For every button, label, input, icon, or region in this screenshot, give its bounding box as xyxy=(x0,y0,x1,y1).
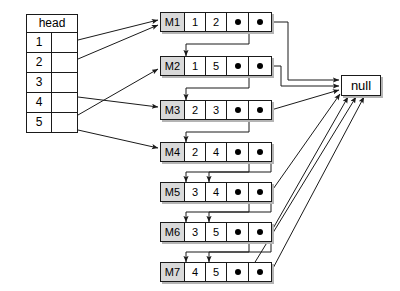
head-row-pointer-cell xyxy=(52,53,77,72)
head-row[interactable]: 5 xyxy=(27,113,77,132)
node-value-2: 2 xyxy=(206,13,227,31)
edge-m1-p2-to-null xyxy=(271,22,339,80)
pointer-dot-icon xyxy=(235,229,241,235)
pointer-dot-icon xyxy=(235,149,241,155)
edge-m3-p2-to-null xyxy=(271,90,339,110)
node-pointer-2[interactable] xyxy=(249,57,271,75)
node-pointer-1[interactable] xyxy=(227,263,249,281)
edge-m5-p2-to-m6-alt xyxy=(209,204,271,222)
node-pointer-1[interactable] xyxy=(227,13,249,31)
node-pointer-1[interactable] xyxy=(227,143,249,161)
pointer-dot-icon xyxy=(257,63,263,69)
edge-m2-p2-to-null xyxy=(271,66,339,86)
node-value-1: 1 xyxy=(185,57,206,75)
edge-m2-p1-to-m3 xyxy=(186,78,249,100)
pointer-dot-icon xyxy=(235,19,241,25)
node-m4[interactable]: M4 2 4 xyxy=(160,142,272,162)
head-row-index: 3 xyxy=(27,73,52,92)
head-row[interactable]: 4 xyxy=(27,93,77,113)
node-value-2: 3 xyxy=(206,101,227,119)
node-value-1: 2 xyxy=(185,101,206,119)
edge-head3-to-m3 xyxy=(78,97,158,107)
edge-head5-to-m4 xyxy=(78,130,158,148)
edge-m4-p2-to-m5-alt xyxy=(209,164,271,182)
pointer-dot-icon xyxy=(235,107,241,113)
node-value-2: 5 xyxy=(206,57,227,75)
pointer-dot-icon xyxy=(257,229,263,235)
null-terminator: null xyxy=(341,75,381,96)
pointer-dot-icon xyxy=(257,19,263,25)
node-label: M3 xyxy=(161,101,185,119)
pointer-dot-icon xyxy=(257,149,263,155)
pointer-dot-icon xyxy=(235,63,241,69)
node-pointer-1[interactable] xyxy=(227,223,249,241)
pointer-dot-icon xyxy=(257,189,263,195)
node-m2[interactable]: M2 1 5 xyxy=(160,56,272,76)
pointer-dot-icon xyxy=(235,189,241,195)
node-m6[interactable]: M6 3 5 xyxy=(160,222,272,242)
node-pointer-2[interactable] xyxy=(249,263,271,281)
node-value-2: 4 xyxy=(206,143,227,161)
head-row[interactable]: 1 xyxy=(27,33,77,53)
node-label: M7 xyxy=(161,263,185,281)
head-row-pointer-cell xyxy=(52,33,77,52)
edge-head1-to-m1 xyxy=(78,20,158,40)
node-value-1: 4 xyxy=(185,263,206,281)
head-row[interactable]: 2 xyxy=(27,53,77,73)
node-value-2: 5 xyxy=(206,263,227,281)
edge-m6-p2-to-m7-alt xyxy=(209,244,271,262)
head-row-index: 5 xyxy=(27,113,52,132)
pointer-dot-icon xyxy=(235,269,241,275)
head-row-pointer-cell xyxy=(52,113,77,132)
edge-m3-p1-to-m4 xyxy=(186,122,249,142)
node-label: M2 xyxy=(161,57,185,75)
node-label: M5 xyxy=(161,183,185,201)
head-row-index: 2 xyxy=(27,53,52,72)
head-table-title: head xyxy=(27,15,77,33)
head-row-index: 1 xyxy=(27,33,52,52)
node-pointer-2[interactable] xyxy=(249,143,271,161)
node-value-1: 3 xyxy=(185,183,206,201)
edge-m5-p2-to-null xyxy=(271,94,340,192)
node-pointer-1[interactable] xyxy=(227,57,249,75)
node-value-2: 5 xyxy=(206,223,227,241)
node-m1[interactable]: M1 1 2 xyxy=(160,12,272,32)
node-pointer-1[interactable] xyxy=(227,101,249,119)
edge-m5-p1-to-m6 xyxy=(186,204,249,222)
node-pointer-2[interactable] xyxy=(249,223,271,241)
node-m7[interactable]: M7 4 5 xyxy=(160,262,272,282)
node-pointer-1[interactable] xyxy=(227,183,249,201)
head-row-pointer-cell xyxy=(52,93,77,112)
edge-m6-p1-to-m7 xyxy=(186,244,249,262)
pointer-dot-icon xyxy=(257,269,263,275)
node-label: M1 xyxy=(161,13,185,31)
head-row-pointer-cell xyxy=(52,73,77,92)
edge-m6-p2-to-null xyxy=(271,97,348,232)
head-row-index: 4 xyxy=(27,93,52,112)
edge-head4-to-m2 xyxy=(78,69,158,115)
node-m5[interactable]: M5 3 4 xyxy=(160,182,272,202)
node-value-1: 2 xyxy=(185,143,206,161)
node-value-1: 3 xyxy=(185,223,206,241)
edge-head2-to-m1 xyxy=(78,25,158,59)
node-label: M6 xyxy=(161,223,185,241)
node-m3[interactable]: M3 2 3 xyxy=(160,100,272,120)
node-value-2: 4 xyxy=(206,183,227,201)
edge-m4-p1-to-m5 xyxy=(186,164,249,182)
node-label: M4 xyxy=(161,143,185,161)
head-table: head 1 2 3 4 5 xyxy=(26,14,78,133)
diagram-canvas: head 1 2 3 4 5 M1 1 2 M2 1 5 xyxy=(0,0,400,291)
node-pointer-2[interactable] xyxy=(249,13,271,31)
edge-m1-p1-to-m2 xyxy=(186,34,249,56)
node-pointer-2[interactable] xyxy=(249,101,271,119)
node-pointer-2[interactable] xyxy=(249,183,271,201)
node-value-1: 1 xyxy=(185,13,206,31)
head-row[interactable]: 3 xyxy=(27,73,77,93)
pointer-dot-icon xyxy=(257,107,263,113)
edge-m7-p2-to-null xyxy=(271,97,364,272)
